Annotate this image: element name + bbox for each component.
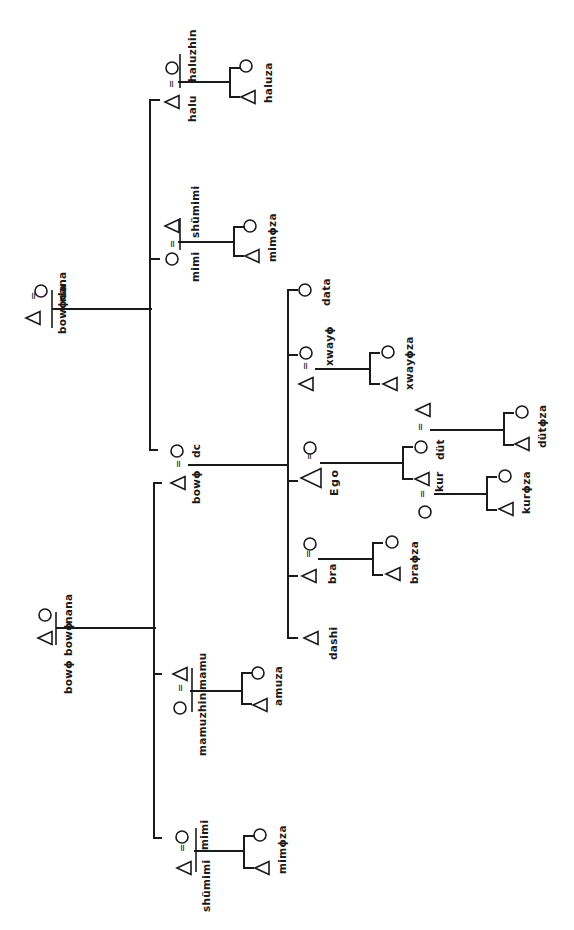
label-halu: halu (186, 95, 198, 122)
child-bracket (373, 543, 383, 575)
female-circle-icon (35, 285, 47, 297)
maternal-grandparents: = bowϕ bowϕ nana (38, 594, 156, 694)
label-mother: dc (190, 444, 202, 458)
child-bracket (403, 447, 413, 479)
parents: = bowϕ dc (171, 444, 287, 504)
child-bracket (487, 477, 497, 510)
family-fz: = mimi shümimi mimϕza (165, 186, 278, 282)
child-kur: = kur kurϕza (415, 470, 532, 518)
female-circle-icon (240, 60, 252, 72)
female-circle-icon (382, 346, 394, 358)
child-bracket (244, 836, 254, 868)
label-mz: mimi (198, 820, 210, 850)
female-circle-icon (516, 406, 528, 418)
marriage-equals: = (166, 80, 177, 88)
male-triangle-icon (38, 632, 52, 645)
sibling-data: data (299, 278, 332, 306)
child-bracket (234, 227, 244, 256)
female-circle-icon (166, 62, 178, 74)
female-circle-icon (304, 442, 316, 454)
male-triangle-icon (415, 473, 429, 486)
label-braza: braϕza (408, 541, 420, 584)
label-mgm: nana (62, 594, 74, 624)
female-circle-icon (252, 667, 264, 679)
marriage-equals: = (415, 423, 426, 431)
label-xway: xwayϕ (323, 326, 335, 366)
female-circle-icon (244, 220, 256, 232)
male-triangle-icon (245, 250, 259, 263)
female-circle-icon (166, 253, 178, 265)
label-pgm: nana (56, 272, 68, 302)
male-triangle-icon (171, 477, 185, 490)
child-bracket (230, 68, 240, 97)
maternal-sibling-line (154, 483, 162, 838)
label-haluza: haluza (262, 62, 274, 103)
label-data: data (320, 278, 332, 306)
female-circle-icon (300, 347, 312, 359)
label-dutza: dütϕza (536, 405, 548, 448)
label-mgf: bowϕ bowϕ (62, 622, 74, 694)
male-triangle-icon (253, 699, 267, 712)
label-haluzhin: haluzhin (186, 29, 198, 82)
male-triangle-icon (177, 862, 191, 875)
label-kurza: kurϕza (520, 471, 532, 514)
label-fzc: mimϕza (266, 213, 278, 262)
sibling-xway: = xwayϕ xwayϕza (299, 326, 415, 390)
female-circle-icon (39, 609, 51, 621)
label-fz: mimi (189, 252, 201, 282)
ego-family: = Ego (301, 442, 413, 496)
male-triangle-icon (165, 96, 179, 109)
female-circle-icon (386, 536, 398, 548)
male-triangle-icon (383, 378, 397, 391)
label-mzh: shümimi (200, 860, 212, 912)
label-father: bowϕ (190, 470, 202, 504)
label-kur: kur (433, 471, 445, 492)
male-triangle-icon (299, 378, 313, 391)
label-dut: düt (434, 439, 446, 460)
male-triangle-icon (386, 568, 400, 581)
label-mzc: mimϕza (276, 825, 288, 874)
child-bracket (504, 413, 514, 445)
marriage-equals: = (173, 460, 184, 468)
male-triangle-icon (255, 862, 269, 875)
family-mb: = mamu mamuzhin amuza (173, 652, 284, 756)
male-triangle-icon (241, 91, 255, 104)
male-triangle-icon (515, 438, 529, 451)
marriage-equals: = (303, 550, 314, 558)
label-mbc: amuza (272, 666, 284, 706)
sibling-bra: = bra braϕza (302, 536, 420, 584)
label-mb: mamu (196, 652, 208, 690)
female-circle-icon (499, 470, 511, 482)
ego-sibling-line (288, 290, 298, 638)
marriage-equals: = (417, 490, 428, 498)
child-bracket (242, 673, 252, 704)
female-circle-icon (415, 441, 427, 453)
sibling-dashi: dashi (304, 627, 339, 660)
family-mz: = mimi shümimi mimϕza (176, 820, 288, 912)
label-fzh: shümimi (189, 186, 201, 238)
female-circle-icon (171, 445, 183, 457)
male-triangle-icon (499, 503, 513, 516)
marriage-equals: = (167, 240, 178, 248)
female-circle-icon (304, 538, 316, 550)
male-triangle-icon (304, 632, 318, 645)
female-circle-icon (254, 829, 266, 841)
ego-triangle-icon (301, 469, 321, 488)
label-mbw: mamuzhin (196, 692, 208, 756)
male-triangle-icon (173, 668, 187, 681)
label-xwayza: xwayϕza (403, 336, 415, 390)
male-triangle-icon (302, 570, 316, 583)
female-circle-icon (419, 506, 431, 518)
family-halu: = halu haluzhin haluza (165, 29, 274, 122)
child-bracket (370, 353, 380, 384)
marriage-equals: = (175, 684, 186, 692)
female-circle-icon (174, 702, 186, 714)
female-circle-icon (176, 831, 188, 843)
label-dashi: dashi (327, 627, 339, 660)
label-ego: Ego (328, 469, 341, 496)
child-dut: = düt dütϕza (415, 404, 548, 461)
male-triangle-icon (165, 220, 179, 233)
male-triangle-icon (416, 404, 430, 417)
male-triangle-icon (26, 312, 40, 325)
kinship-diagram: = bowϕda nana = bowϕ bowϕ nana = halu ha… (0, 0, 574, 930)
